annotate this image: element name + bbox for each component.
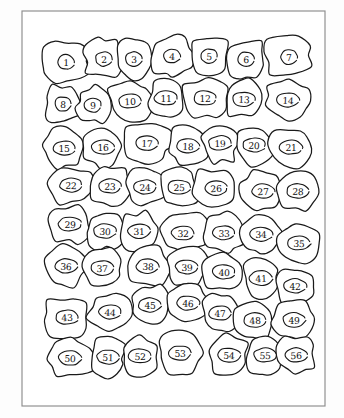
cell-number-label: 9 xyxy=(90,100,96,111)
cell-number-label: 28 xyxy=(292,186,304,197)
cell-number-label: 49 xyxy=(288,315,300,326)
cell-number-label: 54 xyxy=(223,350,235,361)
cell-number-label: 15 xyxy=(58,143,70,154)
cell-number-label: 36 xyxy=(60,261,72,272)
cell-number-label: 4 xyxy=(169,51,176,62)
cell-number-label: 13 xyxy=(238,94,250,106)
cell-number-label: 51 xyxy=(102,352,114,363)
cell-number-label: 37 xyxy=(96,263,108,274)
cell-number-label: 23 xyxy=(104,181,116,192)
cell-number-label: 41 xyxy=(255,273,267,284)
cell-number-label: 19 xyxy=(214,138,226,149)
cell-number-label: 3 xyxy=(131,54,137,65)
cell-number-label: 46 xyxy=(182,298,194,309)
cell-number-label: 21 xyxy=(285,142,296,153)
cell-diagram-canvas: 1234567891011121314151617181920212223242… xyxy=(0,0,344,418)
cell-number-label: 29 xyxy=(64,219,76,230)
cell-number-label: 20 xyxy=(248,140,260,151)
cell-number-label: 6 xyxy=(243,54,249,65)
cell-region[interactable]: 7 xyxy=(264,35,312,76)
cell-number-label: 25 xyxy=(173,182,185,193)
cell-number-label: 16 xyxy=(97,142,109,153)
cell-number-label: 48 xyxy=(249,315,261,326)
cell-region[interactable]: 55 xyxy=(246,336,280,375)
cell-region[interactable]: 11 xyxy=(148,78,183,117)
cell-number-label: 7 xyxy=(286,52,292,63)
cell-number-label: 50 xyxy=(64,353,76,365)
cell-number-label: 44 xyxy=(104,307,116,319)
cell-region[interactable]: 45 xyxy=(132,284,169,324)
cell-number-label: 56 xyxy=(290,350,302,361)
cell-number-label: 47 xyxy=(214,308,226,319)
cell-number-label: 5 xyxy=(206,51,212,62)
cell-region[interactable]: 43 xyxy=(44,299,87,339)
cell-region[interactable]: 37 xyxy=(82,247,121,286)
cell-number-label: 31 xyxy=(133,226,144,237)
cell-number-label: 42 xyxy=(289,281,300,292)
cell-number-label: 26 xyxy=(210,183,222,194)
cell-number-label: 43 xyxy=(61,312,73,323)
cell-region[interactable]: 26 xyxy=(192,169,234,207)
cell-number-label: 33 xyxy=(218,228,230,239)
cell-number-label: 22 xyxy=(65,180,77,191)
cell-region[interactable]: 49 xyxy=(271,300,315,340)
cell-number-label: 2 xyxy=(101,54,107,65)
cell-number-label: 32 xyxy=(177,228,188,239)
cell-diagram-figure: 1234567891011121314151617181920212223242… xyxy=(0,0,344,418)
cell-number-label: 34 xyxy=(255,229,267,240)
cell-region[interactable]: 29 xyxy=(48,205,90,245)
cell-number-label: 52 xyxy=(134,351,145,362)
cell-number-label: 30 xyxy=(99,226,111,238)
cell-number-label: 35 xyxy=(293,238,305,250)
cell-number-label: 55 xyxy=(259,350,271,361)
cell-number-label: 12 xyxy=(199,93,210,104)
cell-number-label: 39 xyxy=(181,262,193,273)
cell-region[interactable]: 12 xyxy=(182,78,228,118)
cell-number-label: 40 xyxy=(218,267,230,278)
cell-region[interactable]: 6 xyxy=(226,40,263,79)
cell-number-label: 11 xyxy=(160,93,171,104)
cell-number-label: 53 xyxy=(174,348,186,359)
cell-number-label: 24 xyxy=(139,182,151,193)
cell-region[interactable]: 1 xyxy=(42,41,90,84)
cell-number-label: 38 xyxy=(142,261,154,273)
cell-number-label: 10 xyxy=(124,96,136,107)
cell-region[interactable]: 30 xyxy=(87,213,125,250)
cell-number-label: 1 xyxy=(63,57,69,68)
cell-number-label: 45 xyxy=(144,300,156,311)
cell-region[interactable]: 5 xyxy=(192,38,229,76)
cell-number-label: 8 xyxy=(60,99,67,110)
cell-number-label: 27 xyxy=(257,186,269,197)
cell-number-label: 14 xyxy=(282,95,294,107)
cell-number-label: 17 xyxy=(141,138,153,149)
cell-number-label: 18 xyxy=(182,141,194,152)
